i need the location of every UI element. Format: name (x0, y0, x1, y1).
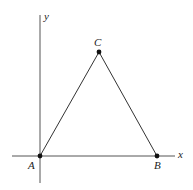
point-b-label: B (154, 160, 161, 171)
x-axis-label: x (178, 149, 183, 160)
point-c (97, 50, 102, 55)
point-b (155, 154, 160, 159)
point-a (38, 154, 43, 159)
side-cb (99, 52, 157, 156)
point-a-label: A (28, 160, 35, 171)
triangle-diagram: y x C A B (0, 0, 193, 190)
point-c-label: C (94, 37, 101, 48)
side-ac (40, 52, 99, 156)
y-axis-label: y (44, 11, 49, 22)
